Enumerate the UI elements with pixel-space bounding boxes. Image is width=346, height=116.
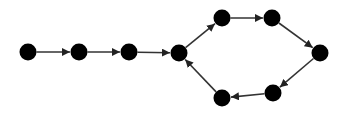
node-n4	[171, 45, 188, 62]
node-n5	[214, 10, 231, 27]
node-n9	[214, 90, 231, 107]
nodes-layer	[20, 10, 329, 107]
node-n1	[20, 44, 37, 61]
edge-n6-to-n7	[279, 23, 313, 48]
node-n7	[312, 45, 329, 62]
edge-n8-to-n9	[231, 94, 265, 97]
edge-n9-to-n4	[185, 60, 216, 92]
edge-n3-to-n4	[138, 52, 171, 53]
node-n2	[71, 44, 88, 61]
directed-graph-diagram	[0, 0, 346, 116]
node-n8	[265, 85, 282, 102]
node-n6	[264, 10, 281, 27]
edge-n4-to-n5	[186, 24, 215, 48]
node-n3	[121, 44, 138, 61]
edge-n7-to-n8	[280, 59, 314, 88]
